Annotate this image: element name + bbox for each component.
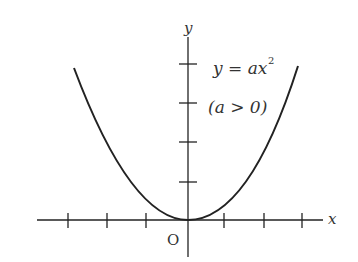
parabola-curve [74,66,298,220]
x-axis-label: x [328,210,337,228]
parabola-diagram: y x O y = ax 2 (a > 0) [0,0,358,262]
condition-label: (a > 0) [208,97,267,117]
y-axis-label: y [183,19,193,37]
equation-label: y = ax [212,58,268,78]
origin-label: O [167,231,179,249]
equation-exponent: 2 [268,55,274,66]
